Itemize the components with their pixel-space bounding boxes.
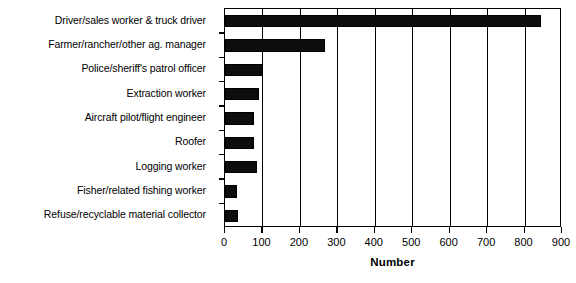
x-axis-tick-label: 100 <box>252 236 270 249</box>
x-axis-tick <box>224 227 225 233</box>
bar-chart: Driver/sales worker & truck driverFarmer… <box>0 0 576 283</box>
y-axis-label: Police/sheriff's patrol officer <box>0 63 206 74</box>
plot-area <box>224 8 561 227</box>
x-axis-tick-label: 900 <box>552 236 570 249</box>
y-axis-label: Aircraft pilot/flight engineer <box>0 112 206 123</box>
y-axis-label: Extraction worker <box>0 88 206 99</box>
bar <box>225 112 254 124</box>
y-axis-label: Driver/sales worker & truck driver <box>0 15 206 26</box>
bar <box>225 39 325 51</box>
y-axis-category-labels: Driver/sales worker & truck driverFarmer… <box>0 8 214 227</box>
bar <box>225 64 263 76</box>
x-axis-tick <box>374 227 375 233</box>
x-axis-tick-label: 300 <box>327 236 345 249</box>
x-axis-tick-label: 700 <box>477 236 495 249</box>
x-axis-tick <box>336 227 337 233</box>
x-axis-tick <box>524 227 525 233</box>
bar <box>225 15 541 27</box>
bar-series <box>225 9 560 226</box>
x-axis-tick-label: 800 <box>514 236 532 249</box>
bar <box>225 137 254 149</box>
x-axis-tick-labels: 0100200300400500600700800900 <box>224 236 561 252</box>
x-axis-tick-label: 600 <box>439 236 457 249</box>
x-axis-tick-label: 200 <box>290 236 308 249</box>
x-axis-tick-label: 500 <box>402 236 420 249</box>
y-axis-label: Fisher/related fishing worker <box>0 185 206 196</box>
y-axis-label: Roofer <box>0 136 206 147</box>
x-axis-title: Number <box>224 256 561 268</box>
x-axis-tick <box>261 227 262 233</box>
x-axis-tick <box>561 227 562 233</box>
x-axis-tick <box>449 227 450 233</box>
x-axis-tick <box>299 227 300 233</box>
y-axis-label: Logging worker <box>0 161 206 172</box>
bar <box>225 210 238 222</box>
x-axis-tick-label: 400 <box>365 236 383 249</box>
x-axis-tick <box>486 227 487 233</box>
x-axis-tick <box>411 227 412 233</box>
bar <box>225 88 259 100</box>
x-axis-ticks <box>224 227 561 234</box>
y-axis-label: Refuse/recyclable material collector <box>0 209 206 220</box>
y-axis-label: Farmer/rancher/other ag. manager <box>0 39 206 50</box>
bar <box>225 161 257 173</box>
bar <box>225 185 237 197</box>
x-axis-tick-label: 0 <box>221 236 227 249</box>
